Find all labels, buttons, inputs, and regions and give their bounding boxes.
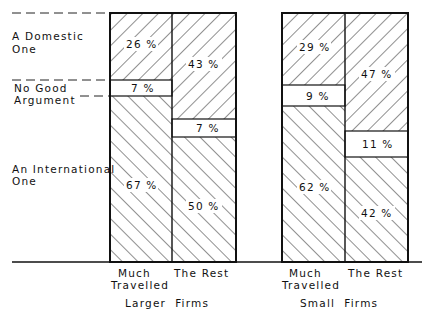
value-label: 62 % [299,181,330,193]
legend-no-good-line2: Argument [14,94,76,106]
value-label: 50 % [188,200,219,212]
category-label-line1: The Rest [348,267,403,279]
legend-international-line1: An International [12,163,115,175]
value-label: 7 % [196,122,220,134]
value-label: 43 % [188,58,219,70]
group-label-small-firms: Small Firms [300,297,378,309]
value-label: 26 % [126,38,157,50]
legend-domestic-line2: One [12,43,37,55]
value-label: 42 % [361,207,392,219]
value-label: 11 % [362,138,393,150]
value-label: 47 % [361,68,392,80]
legend-international-line2: One [12,175,37,187]
category-label-line1: The Rest [174,267,229,279]
category-label-line2: Travelled [282,279,340,291]
bar-larger-the-rest [172,13,236,262]
category-label-line1: Much [118,267,151,279]
value-label: 9 % [306,90,330,102]
group-label-larger-firms: Larger Firms [125,297,209,309]
category-label-line1: Much [289,267,322,279]
legend-domestic-line1: A Domestic [12,30,84,42]
value-label: 7 % [131,82,155,94]
value-label: 67 % [126,179,157,191]
category-label-line2: Travelled [111,279,169,291]
value-label: 29 % [299,41,330,53]
legend-no-good-line1: No Good [14,82,68,94]
